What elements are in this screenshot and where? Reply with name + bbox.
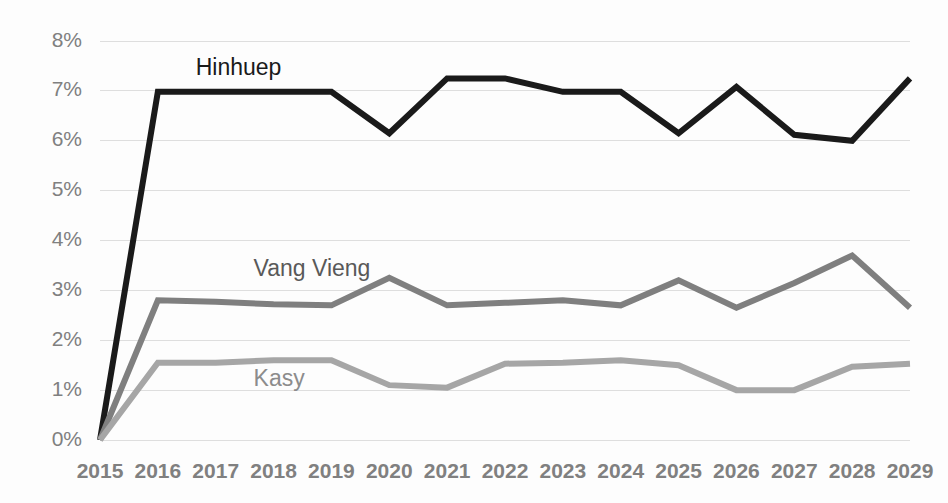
series-label-kasy: Kasy: [254, 365, 306, 391]
y-axis-tick-labels: 0%1%2%3%4%5%6%7%8%: [52, 28, 82, 450]
y-axis-tick-label: 0%: [52, 427, 82, 450]
line-chart-container: 0%1%2%3%4%5%6%7%8% 201520162017201820192…: [0, 0, 948, 503]
y-axis-tick-label: 6%: [52, 127, 82, 150]
x-axis-tick-label: 2025: [655, 459, 702, 482]
y-axis-tick-label: 3%: [52, 277, 82, 300]
x-axis-tick-label: 2026: [713, 459, 760, 482]
y-axis-tick-label: 5%: [52, 177, 82, 200]
x-axis-tick-label: 2028: [829, 459, 876, 482]
x-axis-tick-label: 2023: [539, 459, 586, 482]
series-line-kasy: [100, 360, 910, 440]
data-series-group: [100, 78, 910, 440]
series-line-vang-vieng: [100, 255, 910, 440]
y-axis-tick-label: 7%: [52, 77, 82, 100]
x-axis-tick-label: 2017: [192, 459, 239, 482]
x-axis-tick-label: 2027: [771, 459, 818, 482]
y-axis-tick-label: 1%: [52, 377, 82, 400]
x-axis-tick-label: 2019: [308, 459, 355, 482]
x-axis-tick-label: 2029: [887, 459, 934, 482]
series-line-hinhuep: [100, 78, 910, 440]
x-axis-tick-label: 2015: [77, 459, 124, 482]
x-axis-tick-label: 2022: [482, 459, 529, 482]
x-axis-tick-label: 2018: [250, 459, 297, 482]
x-axis-tick-label: 2021: [424, 459, 471, 482]
y-axis-tick-label: 8%: [52, 28, 82, 51]
chart-canvas: 0%1%2%3%4%5%6%7%8% 201520162017201820192…: [0, 0, 948, 503]
x-axis-tick-label: 2016: [134, 459, 181, 482]
y-axis-tick-label: 2%: [52, 327, 82, 350]
x-axis-tick-label: 2020: [366, 459, 413, 482]
gridlines-group: [100, 41, 910, 440]
y-axis-tick-label: 4%: [52, 227, 82, 250]
x-axis-tick-labels: 2015201620172018201920202021202220232024…: [77, 459, 934, 482]
x-axis-tick-label: 2024: [597, 459, 644, 482]
series-label-vang-vieng: Vang Vieng: [254, 255, 371, 281]
series-label-hinhuep: Hinhuep: [196, 54, 282, 80]
